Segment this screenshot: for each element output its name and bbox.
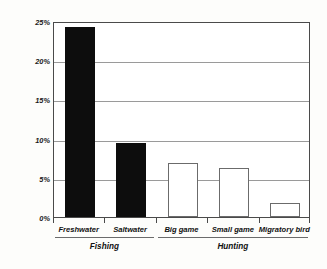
x-tick-mark (207, 218, 208, 223)
bar-small-game[interactable] (219, 168, 249, 217)
x-tick-mark (53, 218, 54, 223)
x-tick-mark (309, 218, 310, 223)
bar-migratory-bird[interactable] (270, 203, 300, 217)
x-tick-mark (156, 218, 157, 223)
category-label-big-game: Big game (156, 224, 207, 235)
category-label-small-game: Small game (207, 224, 258, 235)
group-label-fishing: Fishing (55, 241, 154, 253)
y-axis-tick-labels: 0%5%10%15%20%25% (21, 22, 50, 218)
group-rule-hunting (158, 237, 308, 238)
bar-saltwater[interactable] (116, 143, 146, 217)
y-tick-label: 0% (22, 214, 50, 223)
y-tick-label: 15% (22, 96, 50, 105)
bar-big-game[interactable] (168, 163, 198, 217)
x-tick-mark (104, 218, 105, 223)
bar-chart: percent participating 0%5%10%15%20%25% F… (0, 0, 327, 269)
y-tick-label: 10% (22, 135, 50, 144)
x-axis-category-labels: FreshwaterSaltwaterBig gameSmall gameMig… (53, 224, 310, 236)
category-label-freshwater: Freshwater (53, 224, 104, 235)
group-rule-fishing (55, 237, 154, 238)
y-tick-label: 5% (22, 174, 50, 183)
y-tick-label: 25% (22, 18, 50, 27)
x-tick-mark (259, 218, 260, 223)
category-label-saltwater: Saltwater (104, 224, 155, 235)
x-axis-tick-marks (53, 218, 310, 223)
plot-area (53, 22, 310, 218)
group-label-hunting: Hunting (158, 241, 308, 253)
y-tick-label: 20% (22, 57, 50, 66)
category-label-migratory-bird: Migratory bird (259, 224, 310, 235)
bar-freshwater[interactable] (65, 27, 95, 217)
